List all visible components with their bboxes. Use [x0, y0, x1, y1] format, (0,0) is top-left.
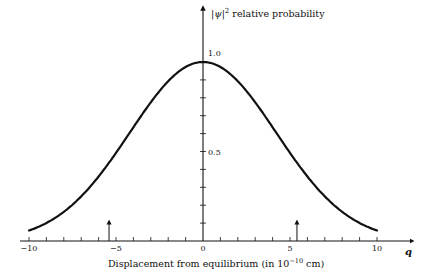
x-tick-label: 5 — [287, 244, 292, 253]
x-tick-label: 10 — [372, 244, 382, 253]
y-axis-label: |ψ|2 relative probability — [211, 7, 325, 20]
x-tick-label: −5 — [110, 244, 122, 253]
x-axis: −10−50510 — [20, 237, 412, 253]
x-tick-label: −10 — [21, 244, 38, 253]
probability-chart: −10−50510 0.51.0 |ψ|2 relative probabili… — [0, 0, 432, 278]
y-tick-label: 1.0 — [208, 49, 221, 58]
x-axis-label: Displacement from equilibrium (in 10−10 … — [108, 257, 324, 269]
y-tick-label: 0.5 — [208, 148, 221, 157]
y-axis: 0.51.0 — [200, 8, 221, 241]
x-axis-symbol: q — [405, 246, 412, 257]
x-tick-label: 0 — [200, 244, 205, 253]
